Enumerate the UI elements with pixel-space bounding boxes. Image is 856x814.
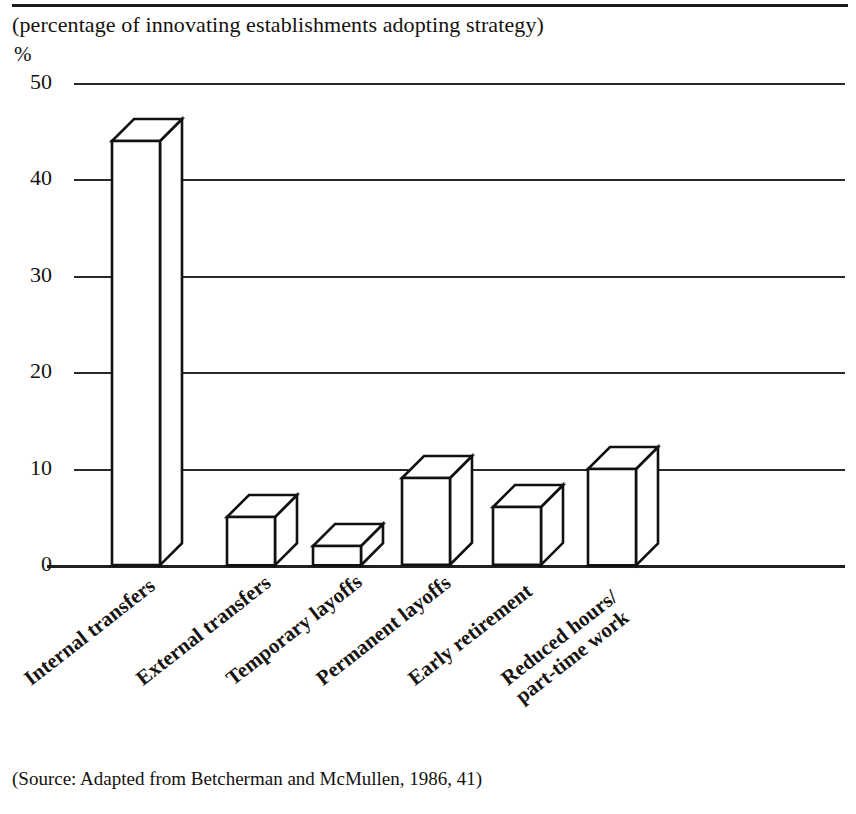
bar-6 — [584, 443, 662, 569]
bar-2 — [223, 491, 301, 569]
source-note: (Source: Adapted from Betcherman and McM… — [12, 768, 482, 790]
plot-area: % 01020304050 — [0, 0, 856, 600]
bars-group — [0, 0, 856, 600]
bar-1 — [108, 115, 186, 569]
chart-page: (percentage of innovating establishments… — [0, 0, 856, 814]
bar-5 — [489, 481, 567, 569]
x-axis-category-labels-group: Internal transfersExternal transfersTemp… — [0, 560, 856, 750]
bar-4 — [398, 452, 476, 569]
